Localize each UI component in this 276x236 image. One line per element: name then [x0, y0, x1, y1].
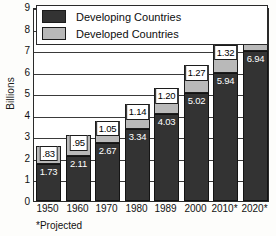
legend-label: Developed Countries: [76, 28, 179, 40]
value-label-developing: 2.11: [68, 158, 89, 170]
light-swatch-icon: [42, 27, 66, 40]
y-tick-label: 2: [16, 154, 30, 164]
bar-segment-developed[interactable]: 1.14: [125, 104, 150, 129]
value-label-developed: .95: [69, 135, 88, 151]
value-label-developed: .83: [39, 146, 58, 162]
bar-segment-developing[interactable]: 4.03: [154, 114, 179, 201]
value-label-developed: 1.27: [185, 65, 209, 81]
bar-1950[interactable]: .831.73: [36, 146, 61, 201]
bar-segment-developing[interactable]: 5.94: [213, 73, 238, 201]
bar-segment-developing[interactable]: 2.11: [66, 156, 91, 201]
value-label-developing: 6.94: [245, 53, 267, 65]
y-tick-label: 6: [16, 68, 30, 78]
bar-1989[interactable]: 1.204.03: [154, 88, 179, 201]
legend: Developing Countries Developed Countries: [36, 5, 268, 45]
y-tick-label: 4: [16, 111, 30, 121]
footnote: *Projected: [36, 220, 82, 231]
bar-segment-developing[interactable]: 1.73: [36, 164, 61, 201]
bar-segment-developed[interactable]: 1.20: [154, 88, 179, 114]
value-label-developed: 1.32: [214, 45, 238, 61]
value-label-developing: 3.34: [127, 131, 149, 143]
bar-2020[interactable]: 1.356.94: [243, 22, 268, 201]
legend-item-developed: Developed Countries: [37, 25, 267, 42]
y-axis-title: Billions: [5, 58, 16, 130]
bar-segment-developed[interactable]: 1.05: [95, 121, 120, 144]
bar-segment-developing[interactable]: 2.67: [95, 143, 120, 201]
bar-1970[interactable]: 1.052.67: [95, 121, 120, 201]
bar-segment-developed[interactable]: .83: [36, 146, 61, 164]
bar-segment-developing[interactable]: 3.34: [125, 129, 150, 201]
bar-segment-developing[interactable]: 6.94: [243, 51, 268, 201]
bar-1980[interactable]: 1.143.34: [125, 104, 150, 201]
bar-2000[interactable]: 1.275.02: [184, 65, 209, 201]
value-label-developing: 4.03: [156, 116, 178, 128]
value-label-developing: 1.73: [38, 166, 60, 178]
value-label-developed: 1.05: [96, 121, 120, 137]
dark-swatch-icon: [42, 10, 66, 23]
legend-item-developing: Developing Countries: [37, 8, 267, 25]
value-label-developed: 1.20: [155, 88, 179, 104]
y-tick-label: 3: [16, 132, 30, 142]
y-tick-label: 0: [16, 197, 30, 207]
value-label-developing: 5.02: [186, 95, 208, 107]
bar-2010[interactable]: 1.325.94: [213, 45, 238, 201]
y-tick-label: 7: [16, 46, 30, 56]
bar-segment-developed[interactable]: 1.32: [213, 45, 238, 73]
y-tick-label: 5: [16, 89, 30, 99]
legend-label: Developing Countries: [76, 11, 181, 23]
y-tick-label: 8: [16, 25, 30, 35]
value-label-developing: 5.94: [215, 75, 237, 87]
bar-segment-developed[interactable]: .95: [66, 135, 91, 155]
y-tick-label: 1: [16, 175, 30, 185]
bar-1960[interactable]: .952.11: [66, 135, 91, 201]
bar-segment-developing[interactable]: 5.02: [184, 93, 209, 201]
population-stacked-bar-chart: Billions 0123456789 .831.73.952.111.052.…: [0, 0, 276, 236]
value-label-developing: 2.67: [97, 145, 119, 157]
bar-segment-developed[interactable]: 1.27: [184, 65, 209, 92]
x-tick-label: 2020*: [237, 204, 273, 214]
y-tick-label: 9: [16, 3, 30, 13]
value-label-developed: 1.14: [126, 104, 150, 120]
